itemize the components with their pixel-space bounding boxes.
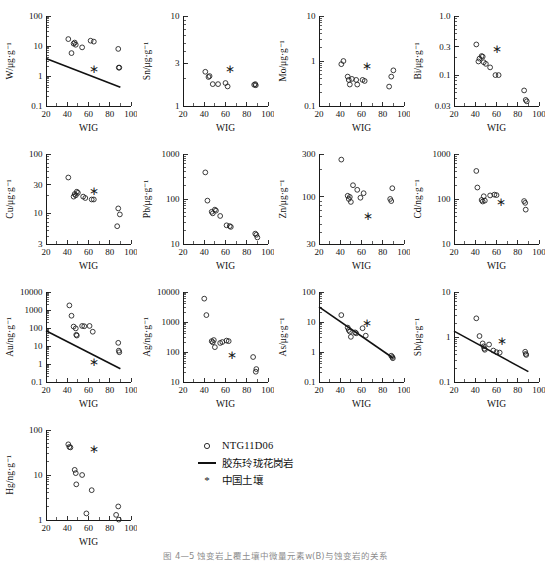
x-axis-title: WIG: [352, 261, 371, 271]
data-point-sample: [67, 303, 72, 308]
data-point-sample: [339, 313, 344, 318]
chart-Bi: 0.030.10.31.020406080100∗Bi/μg·g⁻¹WIG: [410, 4, 545, 142]
axis-lines: [183, 16, 268, 106]
y-axis-title: W/μg·g⁻¹: [5, 42, 15, 79]
data-point-sample: [361, 191, 366, 196]
chart-Pb: 10100100020406080100Pb/μg·g⁻¹WIG: [139, 142, 274, 280]
y-axis-title: Sn/μg·g⁻¹: [142, 42, 152, 80]
data-point-sample: [73, 471, 78, 476]
y-tick-label: 0.3: [439, 42, 451, 52]
panel-Sn: 131020406080100∗Sn/μg·g⁻¹WIG: [139, 4, 274, 142]
x-tick-label: 40: [200, 109, 210, 119]
data-point-sample: [347, 82, 352, 87]
x-axis-title: WIG: [352, 399, 371, 409]
x-tick-label: 40: [200, 385, 210, 395]
data-point-sample: [475, 185, 480, 190]
data-point-sample: [114, 512, 119, 517]
legend-label-samples: NTG11D06: [218, 440, 273, 451]
data-point-sample: [84, 511, 89, 516]
data-point-sample: [480, 341, 485, 346]
x-tick-label: 40: [336, 247, 346, 257]
y-axis-title: Cd/ng·g⁻¹: [413, 179, 423, 218]
panel-Hg: 11010020406080100∗Hg/ng·g⁻¹WIG: [2, 418, 137, 556]
x-tick-label: 80: [105, 385, 115, 395]
panel-W: 0.111010020406080100∗W/μg·g⁻¹WIG: [2, 4, 137, 142]
panel-Au: 0.111010010001000020406080100∗Au/ng·g⁻¹W…: [2, 280, 137, 418]
data-point-china-soil: ∗: [497, 334, 507, 348]
chart-Mo: 0.111020406080100∗Mo/μg·g⁻¹WIG: [275, 4, 410, 142]
data-point-sample: [390, 186, 395, 191]
y-tick-label: 100: [29, 149, 43, 159]
data-point-china-soil: ∗: [89, 442, 99, 456]
x-tick-label: 20: [315, 109, 325, 119]
data-point-sample: [74, 482, 79, 487]
x-tick-label: 60: [357, 385, 367, 395]
data-point-sample: [487, 342, 492, 347]
legend: NTG11D06 胶东玲珑花岗岩 * 中国土壤: [196, 437, 366, 488]
data-point-sample: [474, 169, 479, 174]
y-tick-label: 10: [307, 317, 317, 327]
x-tick-label: 60: [357, 109, 367, 119]
y-tick-label: 10000: [20, 287, 43, 297]
y-tick-label: 10: [307, 11, 317, 21]
star-icon: *: [196, 473, 218, 486]
x-tick-label: 100: [397, 385, 410, 395]
y-axis-title: Sb/μg·g⁻¹: [413, 318, 423, 356]
trendline-granite: [319, 307, 393, 358]
figure-caption: 图 4—5 蚀变岩上覆土壤中微量元素w(B)与蚀变岩的关系: [0, 549, 551, 565]
x-tick-label: 60: [221, 385, 231, 395]
data-point-sample: [69, 313, 74, 318]
y-tick-label: 300: [302, 149, 316, 159]
y-tick-label: 1: [38, 71, 43, 81]
y-axis-title: Mo/μg·g⁻¹: [278, 40, 288, 82]
x-tick-label: 80: [513, 247, 523, 257]
data-point-sample: [66, 175, 71, 180]
x-tick-label: 60: [221, 109, 231, 119]
open-circle-icon: [196, 439, 218, 452]
chart-Sb: 0.111020406080100∗Sb/μg·g⁻¹WIG: [410, 280, 545, 418]
data-point-sample: [523, 207, 528, 212]
x-tick-label: 60: [221, 247, 231, 257]
data-point-sample: [116, 340, 121, 345]
panel-Zn: 3010030020406080100∗Zn/μg·g⁻¹WIG: [275, 142, 410, 280]
data-point-sample: [348, 334, 353, 339]
data-point-sample: [203, 69, 208, 74]
data-point-sample: [477, 334, 482, 339]
x-tick-label: 100: [261, 247, 274, 257]
x-axis-title: WIG: [216, 261, 235, 271]
data-point-sample: [476, 59, 481, 64]
data-point-sample: [205, 198, 210, 203]
data-point-sample: [91, 39, 96, 44]
x-tick-label: 80: [105, 523, 115, 533]
axis-lines: [454, 16, 539, 106]
data-point-sample: [355, 82, 360, 87]
data-point-china-soil: ∗: [89, 355, 99, 369]
x-tick-label: 80: [105, 247, 115, 257]
x-tick-label: 100: [532, 109, 545, 119]
x-tick-label: 60: [84, 523, 94, 533]
x-tick-label: 100: [124, 523, 137, 533]
chart-Sn: 131020406080100∗Sn/μg·g⁻¹WIG: [139, 4, 274, 142]
axis-lines: [183, 154, 268, 244]
x-tick-label: 40: [336, 385, 346, 395]
data-point-sample: [216, 82, 221, 87]
y-tick-label: 1: [311, 347, 316, 357]
y-tick-label: 1: [311, 56, 316, 66]
y-tick-label: 10: [34, 41, 44, 51]
x-axis-title: WIG: [79, 261, 98, 271]
chart-W: 0.111010020406080100∗W/μg·g⁻¹WIG: [2, 4, 137, 142]
x-tick-label: 100: [397, 247, 410, 257]
data-point-sample: [69, 51, 74, 56]
x-tick-label: 80: [242, 109, 252, 119]
x-tick-label: 20: [179, 385, 189, 395]
y-tick-label: 100: [29, 323, 43, 333]
y-tick-label: 1.0: [439, 11, 451, 21]
y-axis-title: Zn/μg·g⁻¹: [278, 179, 288, 218]
panel-As: 0.111010020406080100∗As/μg·g⁻¹WIG: [275, 280, 410, 418]
panel-Ag: 1010010001000020406080100∗Ag/ng·g⁻¹WIG: [139, 280, 274, 418]
data-point-sample: [66, 37, 71, 42]
x-tick-label: 20: [42, 109, 52, 119]
x-axis-title: WIG: [487, 123, 506, 133]
data-point-sample: [387, 84, 392, 89]
y-tick-label: 100: [302, 192, 316, 202]
